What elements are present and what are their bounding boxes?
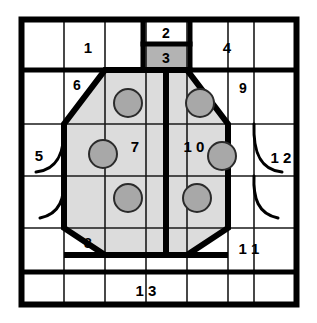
region-label-11: 1 1: [239, 241, 260, 256]
circle-bottom-left: [114, 184, 142, 212]
circle-top-left: [114, 89, 142, 117]
region-label-1: 1: [84, 40, 92, 55]
region-label-13: 1 3: [136, 283, 157, 298]
diagram-canvas: 1 2 3 4 5 6 7 8 9 1 0 1 1 1 2 1 3: [0, 0, 317, 323]
region-label-2: 2: [162, 26, 170, 40]
region-label-6: 6: [73, 78, 81, 92]
region-label-3: 3: [162, 51, 170, 65]
region-label-7: 7: [131, 139, 139, 154]
circle-mid-left: [89, 140, 117, 168]
region-label-9: 9: [239, 81, 247, 95]
circle-top-right: [186, 89, 214, 117]
circle-bottom-right: [183, 184, 211, 212]
region-label-12: 1 2: [271, 150, 292, 165]
region-label-10: 1 0: [184, 139, 205, 154]
region-label-4: 4: [223, 40, 231, 55]
octagon-grid-diagram: [0, 0, 317, 323]
region-label-8: 8: [84, 236, 92, 250]
circle-mid-right: [208, 142, 236, 170]
region-label-5: 5: [35, 148, 43, 163]
